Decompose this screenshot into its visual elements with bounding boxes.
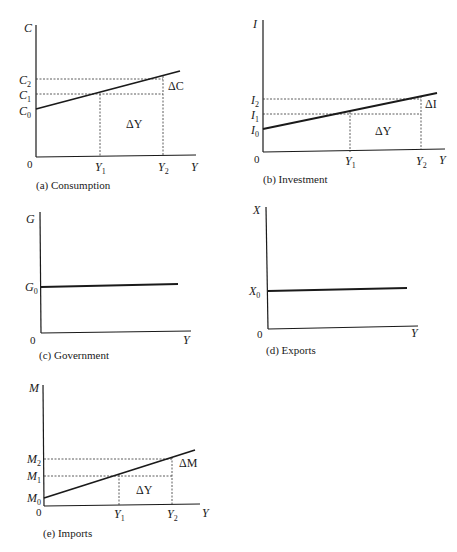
axis-label-i: I [252,17,258,31]
panel-government: G G0 0 Y (c) Government [25,212,191,362]
tick-m2: M2 [26,452,41,468]
tick-i1: I1 [250,108,259,124]
x-axis [36,155,196,157]
caption-imports: (e) Imports [43,527,92,540]
tick-y1: Y1 [345,154,356,170]
tick-m0: M0 [26,491,41,507]
caption-government: (c) Government [39,349,109,362]
panel-consumption: C C2 C1 C0 0 Y1 Y2 Y ΔC ΔY (a) Consumpti… [19,21,199,192]
x-axis [41,331,191,333]
caption-investment: (b) Investment [263,173,327,186]
origin-label: 0 [30,334,36,346]
axis-label-y: Y [202,506,210,520]
y-axis [266,207,268,329]
axis-label-y: Y [183,333,191,347]
caption-exports: (d) Exports [266,344,316,357]
delta-c-label: ΔC [168,79,184,93]
origin-label: 0 [36,506,42,518]
delta-y-label: ΔY [375,124,392,138]
origin-label: 0 [257,328,263,340]
tick-c0: C0 [19,104,31,120]
delta-i-label: ΔI [425,97,437,111]
delta-y-label: ΔY [136,483,153,497]
y-axis [43,385,44,506]
axis-label-y: Y [439,153,447,167]
x-axis [268,326,418,329]
axis-label-y: Y [191,160,199,174]
diagram-canvas: C C2 C1 C0 0 Y1 Y2 Y ΔC ΔY (a) Consumpti… [0,0,457,552]
tick-y1: Y1 [95,160,106,176]
consumption-line [36,71,180,109]
tick-i2: I2 [250,93,259,109]
origin-label: 0 [27,158,33,170]
tick-y2: Y2 [416,154,427,170]
tick-i0: I0 [250,123,259,139]
axis-label-y: Y [411,326,419,340]
imports-line [44,450,195,498]
tick-y2: Y2 [158,160,169,176]
government-line [41,284,178,287]
y-axis [40,212,41,333]
axis-label-c: C [24,21,33,35]
panel-imports: M M2 M1 M0 0 Y1 Y2 Y ΔM ΔY (e) Imports [26,381,210,540]
tick-c1: C1 [19,88,31,104]
caption-consumption: (a) Consumption [36,179,111,192]
origin-label: 0 [254,153,260,165]
tick-c2: C2 [19,73,31,89]
tick-g0: G0 [25,280,38,296]
axis-label-x: X [252,203,261,217]
exports-line [268,288,407,291]
tick-x0: X0 [248,284,260,300]
axis-label-m: M [28,381,40,395]
panel-investment: I I2 I1 I0 0 Y1 Y2 Y ΔI ΔY (b) Investmen… [250,17,447,186]
tick-m1: M1 [26,469,41,485]
tick-y1: Y1 [114,507,125,523]
delta-m-label: ΔM [179,456,198,470]
delta-y-label: ΔY [126,117,143,131]
tick-y2: Y2 [167,507,178,523]
x-axis [263,149,445,152]
axis-label-g: G [26,212,35,226]
x-axis [44,504,200,506]
panel-exports: X X0 0 Y (d) Exports [248,203,419,357]
